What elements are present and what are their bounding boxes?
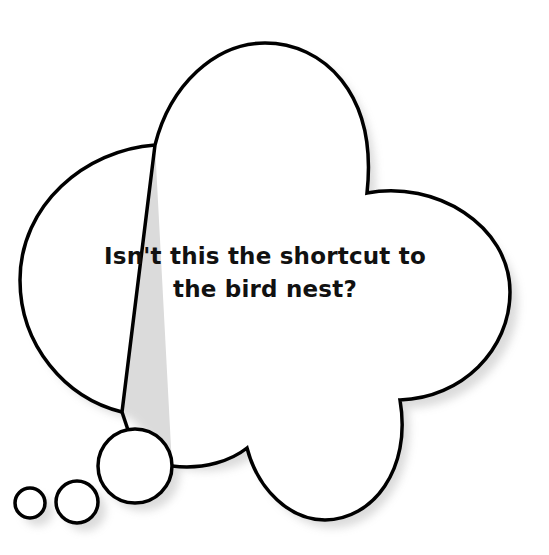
bubble-text-line-2: the bird nest?: [100, 273, 430, 306]
bubble-text: Isn't this the shortcut to the bird nest…: [100, 240, 430, 306]
bubble-text-line-1: Isn't this the shortcut to: [100, 240, 430, 273]
thought-circle-small: [15, 488, 45, 518]
thought-circle-medium: [56, 481, 98, 523]
thought-circle-large: [98, 429, 172, 503]
